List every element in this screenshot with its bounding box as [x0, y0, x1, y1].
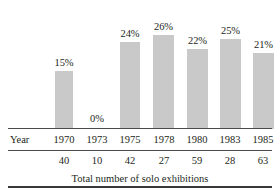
bar-value-label: 25% — [211, 25, 250, 36]
plot-area: 15% 0% 24% 26% 22% 25% 21% — [0, 0, 280, 129]
year-row-header: Year — [10, 134, 29, 146]
bar-value-label: 0% — [79, 113, 115, 124]
count-cell: 27 — [146, 155, 182, 167]
data-table: Year 1970 1973 1975 1978 1980 1983 1985 … — [0, 129, 280, 193]
bar — [153, 35, 174, 129]
bar-value-label: 15% — [46, 57, 82, 68]
table-caption: Total number of solo exhibitions — [0, 173, 280, 185]
bar — [187, 49, 208, 129]
bar-chart-figure: 15% 0% 24% 26% 22% 25% 21% — [0, 0, 280, 193]
year-cell: 1973 — [79, 134, 115, 146]
count-cell: 40 — [46, 155, 82, 167]
bar-column-1973: 0% — [88, 0, 106, 129]
bar-column-1978: 26% — [153, 0, 174, 129]
bar-column-1980: 22% — [187, 0, 208, 129]
count-cell: 10 — [79, 155, 115, 167]
count-cell: 28 — [212, 155, 248, 167]
bar — [120, 42, 140, 129]
count-cell: 42 — [112, 155, 148, 167]
count-cell: 63 — [245, 155, 280, 167]
bar — [55, 71, 73, 129]
year-cell: 1980 — [179, 134, 215, 146]
bar-value-label: 21% — [244, 39, 280, 50]
bar-value-label: 22% — [178, 35, 217, 46]
bar-column-1985: 21% — [253, 0, 274, 129]
year-cell: 1983 — [212, 134, 248, 146]
bar — [220, 39, 241, 129]
bar-value-label: 26% — [144, 21, 183, 32]
count-cell: 59 — [179, 155, 215, 167]
year-cell: 1985 — [245, 134, 280, 146]
year-cell: 1978 — [146, 134, 182, 146]
bar-column-1975: 24% — [120, 0, 140, 129]
year-cell: 1970 — [46, 134, 82, 146]
bar-column-1983: 25% — [220, 0, 241, 129]
bar — [253, 53, 274, 129]
year-cell: 1975 — [112, 134, 148, 146]
bar-column-1970: 15% — [55, 0, 73, 129]
